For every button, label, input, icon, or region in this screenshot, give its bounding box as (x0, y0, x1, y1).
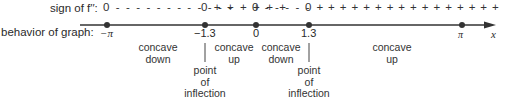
axis-variable-label: x (491, 28, 496, 40)
tick-label-neg-1-3: −1.3 (194, 27, 216, 39)
number-line (0, 0, 514, 106)
interval-label-1: concave down (128, 42, 188, 65)
tick-label-1-3: 1.3 (301, 27, 316, 39)
point-dot-pi (459, 22, 465, 28)
interval-label-2: concave up (212, 42, 256, 65)
tick-label-pi: π (458, 29, 463, 41)
tick-label-0: 0 (253, 27, 259, 39)
interval-label-4: concave up (362, 42, 422, 65)
interval-label-3: concave down (258, 42, 304, 65)
inflection-label-neg-1-3: point of inflection (180, 65, 230, 100)
tick-label-neg-pi: −π (100, 27, 113, 39)
inflection-label-1-3: point of inflection (284, 65, 334, 100)
